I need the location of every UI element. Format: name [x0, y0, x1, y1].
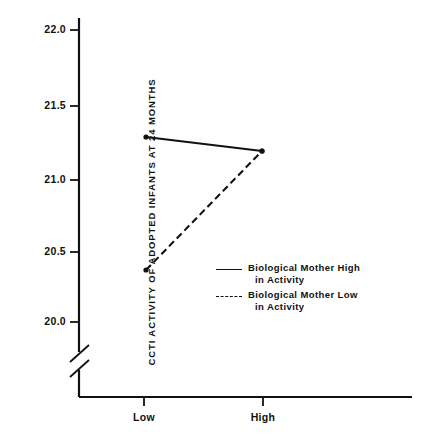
- legend-label-series-high-line1: Biological Mother High: [248, 262, 376, 274]
- legend-label-series-low-line2: in Activity: [255, 301, 376, 313]
- x-tick-label-high: High: [251, 411, 276, 423]
- chart-figure: 22.0 21.5 21.0 20.5 20.0 CCTI ACTIVITY O…: [0, 0, 431, 444]
- y-tick-label-20-0: 20.0: [26, 315, 66, 327]
- y-tick-label-22-0: 22.0: [26, 23, 66, 35]
- series-low-line: [146, 151, 262, 270]
- legend-dashed-line-icon: [216, 296, 242, 297]
- series-high-line: [146, 137, 262, 151]
- plot-area: [0, 0, 431, 444]
- y-tick-label-21-5: 21.5: [26, 99, 66, 111]
- series-low-point-high: [259, 148, 264, 153]
- legend-item-series-high: Biological Mother High in Activity: [216, 262, 376, 285]
- y-tick-label-21-0: 21.0: [26, 173, 66, 185]
- legend-label-series-high-line2: in Activity: [255, 274, 376, 286]
- y-axis-title: CCTI ACTIVITY OF ADOPTED INFANTS AT 24 M…: [146, 78, 157, 365]
- legend-item-series-low: Biological Mother Low in Activity: [216, 289, 376, 312]
- legend-solid-line-icon: [216, 269, 242, 270]
- legend-label-series-low-line1: Biological Mother Low: [248, 289, 376, 301]
- y-tick-label-20-5: 20.5: [26, 245, 66, 257]
- chart-legend: Biological Mother High in Activity Biolo…: [216, 262, 376, 316]
- x-tick-label-low: Low: [133, 411, 155, 423]
